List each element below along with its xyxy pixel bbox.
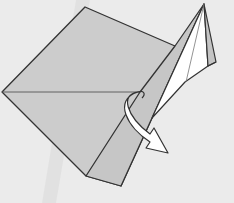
fold-illustration [0,0,234,203]
origami-diagram [0,0,234,203]
